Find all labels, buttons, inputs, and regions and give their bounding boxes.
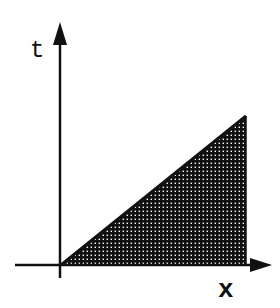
- x-axis-arrowhead: [250, 258, 272, 272]
- x-axis-label: x: [218, 275, 234, 305]
- t-axis-arrowhead: [53, 22, 67, 45]
- diagram-canvas: t x: [0, 0, 280, 308]
- t-axis-label: t: [30, 37, 44, 64]
